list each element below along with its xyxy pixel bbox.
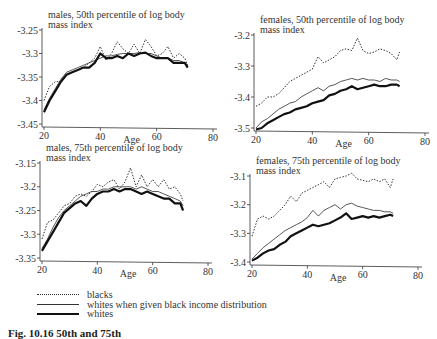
y-tick-label: -3.1 <box>230 171 246 182</box>
y-tick-label: -3.2 <box>230 199 246 210</box>
x-tick-label: 60 <box>152 131 162 142</box>
series-line <box>252 203 393 259</box>
x-tick-label: 40 <box>95 131 105 142</box>
x-axis-label: Age <box>120 268 137 279</box>
x-tick-label: 80 <box>208 132 218 143</box>
y-tick-label: -3.4 <box>230 257 246 268</box>
dotted-line-swatch <box>37 294 79 295</box>
y-tick-label: -3.15 <box>15 158 36 169</box>
panel-title: mass index <box>260 24 305 35</box>
y-tick-label: -3.3 <box>234 61 250 72</box>
legend-item-whites: whites <box>37 309 267 319</box>
y-tick-label: -3.4 <box>234 92 250 103</box>
series-line <box>44 53 188 113</box>
y-tick-label: -3.25 <box>15 205 36 216</box>
x-tick-label: 20 <box>251 134 261 145</box>
series-line <box>42 187 183 249</box>
x-tick-label: 80 <box>420 136 430 147</box>
x-tick-label: 40 <box>92 265 102 276</box>
legend-label: whites <box>87 308 113 319</box>
x-tick-label: 40 <box>307 135 317 146</box>
series-line <box>44 39 188 100</box>
legend-item-whites-black-income: whites when given black income distribut… <box>37 300 267 310</box>
x-axis <box>42 127 217 129</box>
x-tick-label: 20 <box>37 264 47 275</box>
x-tick-label: 80 <box>203 266 213 277</box>
x-tick-label: 60 <box>364 135 374 146</box>
series-line <box>252 213 393 260</box>
panel-title: mass index <box>46 152 91 163</box>
legend: blacks whites when given black income di… <box>37 290 267 319</box>
x-tick-label: 60 <box>148 265 158 276</box>
y-tick-label: -3.2 <box>20 181 36 192</box>
x-axis <box>250 265 422 267</box>
y-tick-label: -3.35 <box>15 253 36 264</box>
y-tick-label: -3.3 <box>22 48 38 59</box>
panel-females-75th: females, 75th percentile of log bodymass… <box>230 155 423 283</box>
panel-title: mass index <box>256 165 301 176</box>
x-tick-label: 60 <box>358 269 368 280</box>
series-line <box>252 173 393 236</box>
y-tick-label: -3.35 <box>17 72 38 83</box>
y-tick-label: -3.3 <box>20 229 36 240</box>
series-line <box>44 53 188 110</box>
x-axis-label: Age <box>330 272 347 283</box>
series-line <box>42 168 183 239</box>
panel-males-75th: males, 75th percentile of log bodymass i… <box>15 142 213 279</box>
x-axis-label: Age <box>335 138 352 149</box>
thin-line-swatch <box>37 304 79 305</box>
y-tick-label: -3.4 <box>22 95 38 106</box>
y-tick-label: -3.45 <box>17 119 38 130</box>
x-axis <box>40 261 212 263</box>
panel-females-50th: females, 50th percentile of log bodymass… <box>234 14 430 149</box>
x-axis <box>254 131 429 133</box>
series-line <box>42 189 183 251</box>
x-tick-label: 40 <box>302 269 312 280</box>
y-tick-label: -3.2 <box>234 30 250 41</box>
y-tick-label: -3.5 <box>234 123 250 134</box>
x-tick-label: 20 <box>39 130 49 141</box>
y-tick-label: -3.3 <box>230 228 246 239</box>
x-tick-label: 80 <box>413 270 423 281</box>
panel-males-50th: males, 50th percentile of log bodymass i… <box>17 9 218 145</box>
series-line <box>256 85 400 130</box>
y-tick-label: -3.25 <box>17 25 38 36</box>
legend-label: whites when given black income distribut… <box>87 299 267 310</box>
figure-caption: Fig. 10.16 50th and 75th <box>8 327 121 339</box>
panel-title: mass index <box>48 19 93 30</box>
thick-line-swatch <box>37 313 79 315</box>
x-tick-label: 20 <box>247 268 257 279</box>
